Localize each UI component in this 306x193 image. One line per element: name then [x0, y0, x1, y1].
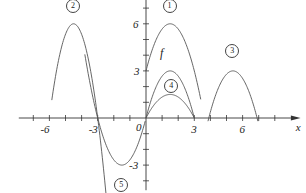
curve-label-f: f: [160, 47, 163, 59]
x-tick-label-pos3: 3: [191, 124, 197, 135]
curve-label-5: 5: [114, 178, 128, 192]
circled-number-3: 3: [225, 44, 239, 58]
y-tick-label-6: 6: [133, 19, 139, 30]
curve-curve-3: [208, 71, 258, 121]
curve-curve-4: [146, 94, 194, 118]
circled-number-2: 2: [66, 0, 80, 13]
y-tick-label-3: 3: [134, 66, 140, 77]
curve-label-2: 2: [66, 0, 80, 13]
x-tick-label-pos6: 6: [240, 124, 246, 135]
plot-canvas: [0, 0, 306, 193]
x-tick-label-neg3: -3: [89, 124, 98, 135]
curve-curve-2: [52, 24, 107, 193]
circled-number-5: 5: [114, 178, 128, 192]
curve-label-3: 3: [225, 44, 239, 58]
x-axis-label: x: [296, 122, 301, 133]
circled-number-4: 4: [164, 79, 178, 93]
circled-number-1: 1: [163, 0, 177, 13]
axes-group: [19, 0, 301, 190]
x-tick-label-neg6: -6: [40, 124, 49, 135]
curve-label-1: 1: [163, 0, 177, 13]
curve-label-4: 4: [164, 79, 178, 93]
origin-label: 0: [136, 122, 142, 133]
y-tick-label-neg3: -3: [129, 160, 138, 171]
parabola-transformations-figure: -6 -3 3 6 6 3 -3 0 x y 1 2 3 4 5 f: [0, 0, 306, 193]
x-axis-arrowhead: [291, 115, 301, 120]
